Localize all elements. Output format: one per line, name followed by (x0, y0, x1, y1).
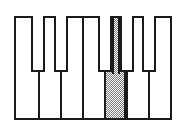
black-key-5[interactable] (142, 16, 156, 72)
black-key-1[interactable] (31, 16, 45, 72)
black-key-2-face (56, 16, 66, 70)
black-key-4-face (122, 16, 132, 70)
black-key-2[interactable] (54, 16, 68, 72)
black-key-4[interactable] (120, 16, 134, 72)
highlight-shading-upper (112, 18, 120, 74)
black-key-1-face (33, 16, 43, 70)
black-key-5-face (144, 16, 154, 70)
black-key-3[interactable] (98, 16, 112, 72)
piano-keyboard-figure: A one-octave piano keyboard drawn in lin… (0, 0, 186, 130)
keyboard-frame (14, 16, 172, 120)
black-key-3-face (100, 16, 110, 70)
black-keys-layer (16, 18, 170, 118)
figure-caption: A one-octave piano keyboard drawn in lin… (0, 0, 1, 1)
